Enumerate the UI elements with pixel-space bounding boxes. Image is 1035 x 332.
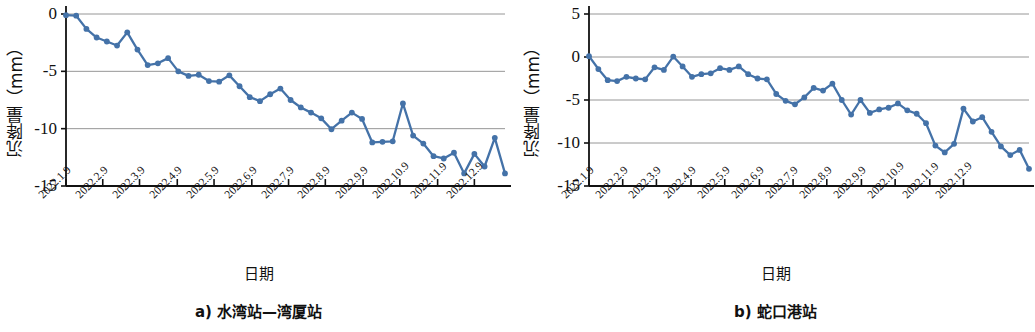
data-point: [298, 105, 304, 111]
data-point: [400, 101, 406, 107]
data-point: [277, 86, 283, 92]
x-axis-title-b: 日期: [517, 262, 1034, 283]
data-point: [502, 170, 508, 176]
panel-caption-b: b) 蛇口港站: [517, 300, 1034, 321]
data-point: [979, 114, 985, 120]
series-line: [589, 56, 1029, 169]
data-point: [369, 140, 375, 146]
data-point: [308, 110, 314, 116]
data-point: [431, 153, 437, 159]
data-point: [165, 55, 171, 61]
data-point: [349, 110, 355, 116]
data-point: [792, 101, 798, 107]
data-point: [970, 119, 976, 125]
data-point: [586, 53, 592, 59]
data-point: [247, 94, 253, 100]
data-point: [104, 39, 110, 45]
data-point: [257, 98, 263, 104]
data-point: [1026, 166, 1032, 172]
series-line: [66, 15, 505, 173]
data-point: [736, 64, 742, 70]
data-point: [867, 110, 873, 116]
data-point: [904, 107, 910, 113]
figure-two-panel-line-charts: 沉降量（mm） 0-5-10-15 2022.1.92022.2.92022.3…: [0, 0, 1035, 332]
data-point: [1007, 152, 1013, 158]
data-point: [727, 67, 733, 73]
data-point: [380, 139, 386, 145]
data-point: [876, 107, 882, 113]
data-point: [942, 150, 948, 156]
data-point: [135, 47, 141, 53]
x-axis-labels-b: 2022.1.92022.2.92022.3.92022.4.92022.5.9…: [517, 190, 1034, 260]
data-point: [145, 62, 151, 68]
data-point: [652, 64, 658, 70]
data-point: [745, 71, 751, 77]
panel-b: 沉降量（mm） 50-5-10-15 2022.1.92022.2.92022.…: [517, 0, 1034, 332]
data-point: [1017, 147, 1023, 153]
data-point: [820, 88, 826, 94]
data-point: [708, 70, 714, 76]
data-point: [390, 138, 396, 144]
data-point: [175, 68, 181, 74]
data-point: [661, 67, 667, 73]
data-point: [839, 97, 845, 103]
data-point: [329, 126, 335, 132]
data-point: [689, 74, 695, 80]
x-axis-labels-a: 2022.1.92022.2.92022.3.92022.4.92022.5.9…: [0, 190, 517, 260]
data-point: [124, 29, 130, 35]
data-point: [755, 76, 761, 82]
panel-caption-a: a) 水湾站—湾厦站: [0, 300, 517, 321]
data-point: [642, 76, 648, 82]
data-point: [410, 133, 416, 139]
data-point: [764, 76, 770, 82]
data-point: [339, 118, 345, 124]
data-point: [961, 106, 967, 112]
data-point: [670, 54, 676, 60]
data-point: [932, 143, 938, 149]
data-point: [73, 13, 79, 19]
data-point: [359, 116, 365, 122]
data-point: [237, 83, 243, 89]
data-point: [605, 77, 611, 83]
data-point: [186, 73, 192, 79]
data-point: [624, 74, 630, 80]
data-point: [94, 35, 100, 41]
data-point: [267, 91, 273, 97]
data-point: [614, 78, 620, 84]
data-point: [288, 97, 294, 103]
data-point: [801, 95, 807, 101]
panel-a: 沉降量（mm） 0-5-10-15 2022.1.92022.2.92022.3…: [0, 0, 517, 332]
data-point: [858, 97, 864, 103]
data-point: [206, 78, 212, 84]
data-point: [633, 76, 639, 82]
data-point: [196, 72, 202, 78]
data-point: [830, 81, 836, 87]
data-point: [951, 141, 957, 147]
data-point: [773, 91, 779, 97]
data-point: [451, 150, 457, 156]
data-point: [680, 64, 686, 70]
data-point: [783, 98, 789, 104]
data-point: [886, 105, 892, 111]
data-point: [318, 115, 324, 121]
data-point: [895, 101, 901, 107]
data-point: [923, 120, 929, 126]
x-axis-title-a: 日期: [0, 262, 517, 283]
data-point: [216, 79, 222, 85]
data-point: [998, 144, 1004, 150]
data-point: [914, 111, 920, 117]
data-point: [492, 135, 498, 141]
data-point: [989, 129, 995, 135]
data-point: [811, 85, 817, 91]
data-point: [420, 141, 426, 147]
data-point: [471, 151, 477, 157]
data-point: [595, 66, 601, 72]
data-point: [114, 43, 120, 49]
data-point: [155, 60, 161, 66]
data-point: [63, 12, 69, 18]
data-point: [698, 71, 704, 77]
data-point: [717, 65, 723, 71]
data-point: [848, 112, 854, 118]
data-point: [226, 72, 232, 78]
data-point: [84, 26, 90, 32]
